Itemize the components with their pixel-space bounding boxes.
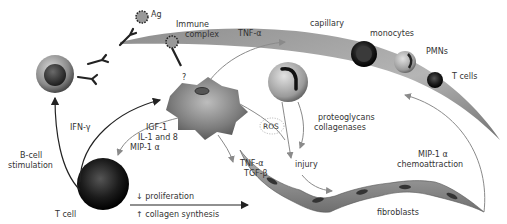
label-immune: Immune <box>176 20 209 29</box>
label-ag: Ag <box>151 10 162 19</box>
label-injury: injury <box>295 160 318 169</box>
label-b-cell: B-cell <box>20 151 42 160</box>
label-proliferation: ↓ proliferation <box>136 192 194 201</box>
label-stimulation: stimulation <box>8 161 53 170</box>
label-mip1a-left: MIP-1 α <box>130 143 160 152</box>
t-cell <box>77 158 129 210</box>
label-chemoattraction: chemoattraction <box>397 160 463 169</box>
fibrosis-pathway-diagram: Ag Immune complex ? ROS <box>0 0 507 224</box>
label-proteoglycans: proteoglycans <box>318 113 375 122</box>
macrophage-cell <box>166 77 248 140</box>
label-ifn-gamma: IFN-γ <box>70 123 91 132</box>
arrow-b-cell-stimulation <box>55 98 80 190</box>
label-ros: ROS <box>263 122 279 131</box>
b-cell <box>36 55 74 93</box>
label-tnf-alpha-mid: TNF-α <box>239 159 264 168</box>
label-question: ? <box>182 73 186 82</box>
arrow-injury-fibroblasts <box>302 175 332 191</box>
label-collagenases: collagenases <box>314 123 366 132</box>
arrow-monocyte-injury <box>282 102 291 158</box>
label-pmns: PMNs <box>426 47 448 56</box>
label-monocytes: monocytes <box>370 29 414 38</box>
macrophage-nucleus <box>195 88 209 95</box>
label-t-cell: T cell <box>54 210 76 219</box>
label-mip1a-right: MIP-1 α <box>418 150 448 159</box>
label-fibroblasts: fibroblasts <box>377 208 419 217</box>
antibody-icon <box>78 29 136 84</box>
antigen-icon <box>136 11 148 23</box>
extravasated-monocyte <box>268 62 308 102</box>
label-tnf-alpha-top: TNF-α <box>237 29 262 38</box>
t-cell-in-capillary <box>427 72 443 88</box>
pmn-cell <box>394 51 416 73</box>
arrow-tnf-tgf-to-fibroblasts <box>218 135 233 162</box>
label-igf1: IGF-1 <box>146 123 167 132</box>
label-complex: complex <box>185 30 219 39</box>
label-il1-8: IL-1 and 8 <box>138 133 178 142</box>
label-t-cells: T cells <box>451 72 477 81</box>
arrow-proteoglycans <box>298 102 304 148</box>
monocyte-cell <box>351 41 377 67</box>
label-tgf-beta: TGF-β <box>243 169 268 178</box>
label-capillary: capillary <box>310 19 344 28</box>
label-collagen-synthesis: ↑ collagen synthesis <box>136 210 219 219</box>
